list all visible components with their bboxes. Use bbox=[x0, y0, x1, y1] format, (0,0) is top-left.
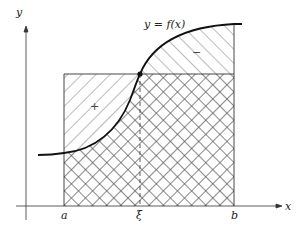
y-axis-label: y bbox=[15, 6, 23, 19]
curve-label: y = f(x) bbox=[143, 18, 185, 31]
tick-a: a bbox=[61, 209, 68, 222]
figure: y x a ξ b y = f(x) + − bbox=[0, 0, 306, 230]
xi-point bbox=[137, 71, 142, 76]
minus-sign: − bbox=[192, 46, 201, 59]
tick-xi: ξ bbox=[136, 209, 143, 222]
plus-sign: + bbox=[90, 100, 99, 113]
x-axis-label: x bbox=[285, 200, 292, 213]
tick-b: b bbox=[231, 209, 238, 222]
